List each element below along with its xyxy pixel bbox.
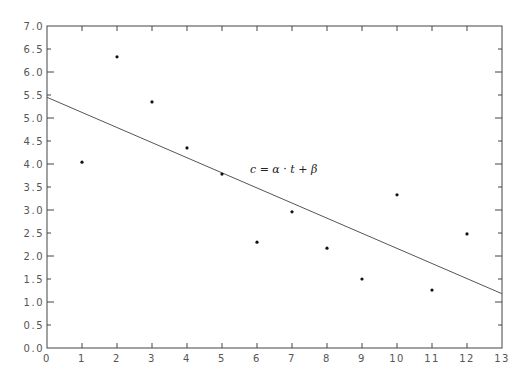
x-tick-label: 7 <box>288 353 296 364</box>
x-tick-label: 6 <box>253 353 261 364</box>
x-tick-label: 13 <box>494 353 510 364</box>
x-tick-label: 0 <box>43 353 51 364</box>
x-tick-label: 8 <box>323 353 331 364</box>
data-point <box>255 241 258 244</box>
y-tick-label: 3.5 <box>24 182 44 193</box>
y-tick-label: 3.0 <box>24 205 44 216</box>
y-tick-label: 0.5 <box>24 320 44 331</box>
x-tick-label: 10 <box>389 353 405 364</box>
data-point <box>395 193 398 196</box>
data-point <box>360 277 363 280</box>
data-point <box>185 146 188 149</box>
data-point <box>290 210 293 213</box>
x-tick-label: 12 <box>459 353 475 364</box>
x-tick-label: 3 <box>148 353 156 364</box>
equation-annotation: c = α · t + β <box>250 163 317 176</box>
regression-line <box>47 97 502 293</box>
scatter-chart: 0.00.51.01.52.02.53.03.54.04.55.05.56.06… <box>0 0 524 381</box>
y-tick-label: 4.0 <box>24 159 44 170</box>
data-point <box>220 173 223 176</box>
y-tick-label: 2.5 <box>24 228 44 239</box>
equation-label: c = α · t + β <box>250 163 317 176</box>
data-point <box>150 100 153 103</box>
y-tick-label: 5.0 <box>24 113 44 124</box>
fit-line <box>47 97 502 293</box>
data-point <box>465 232 468 235</box>
y-tick-label: 2.0 <box>24 251 44 262</box>
x-tick-label: 9 <box>358 353 366 364</box>
data-point <box>430 288 433 291</box>
y-tick-label: 4.5 <box>24 136 44 147</box>
data-point <box>115 55 118 58</box>
y-tick-label: 6.0 <box>24 67 44 78</box>
plot-frame <box>47 26 502 348</box>
y-tick-label: 5.5 <box>24 90 44 101</box>
x-tick-label: 2 <box>113 353 121 364</box>
y-tick-label: 7.0 <box>24 21 44 32</box>
x-tick-label: 5 <box>218 353 226 364</box>
y-tick-label: 6.5 <box>24 44 44 55</box>
y-tick-label: 0.0 <box>24 343 44 354</box>
x-tick-label: 1 <box>78 353 86 364</box>
y-tick-label: 1.5 <box>24 274 44 285</box>
data-point <box>325 247 328 250</box>
x-axis-ticks: 012345678910111213 <box>43 26 510 364</box>
y-tick-label: 1.0 <box>24 297 44 308</box>
y-axis-ticks: 0.00.51.01.52.02.53.03.54.04.55.05.56.06… <box>24 21 502 354</box>
plot-axes <box>47 26 502 348</box>
x-tick-label: 11 <box>424 353 440 364</box>
data-point <box>80 161 83 164</box>
x-tick-label: 4 <box>183 353 191 364</box>
